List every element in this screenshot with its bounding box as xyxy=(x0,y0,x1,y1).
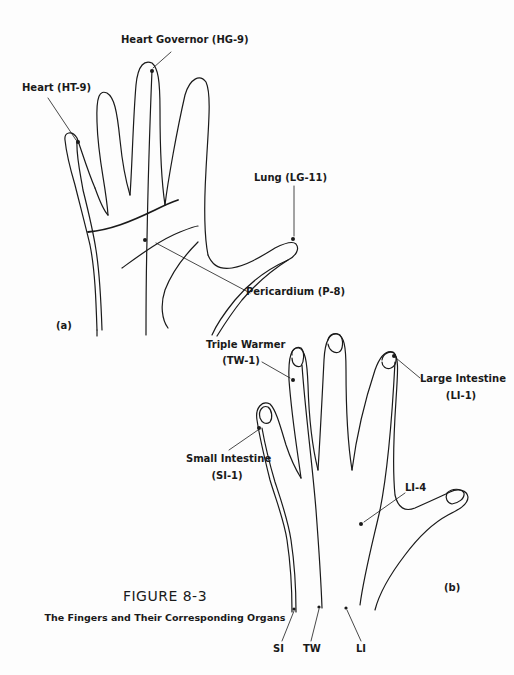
label-triple-warmer-code: (TW-1) xyxy=(206,355,276,366)
hand-illustrations xyxy=(0,0,514,675)
label-small-intestine: Small Intestine xyxy=(186,453,268,464)
label-heart: Heart (HT-9) xyxy=(22,82,91,93)
label-pericardium: Pericardium (P-8) xyxy=(246,286,345,297)
panel-a-tag: (a) xyxy=(56,320,72,331)
label-small-intestine-code: (SI-1) xyxy=(186,470,268,481)
figure-number: FIGURE 8-3 xyxy=(95,588,235,604)
label-meridian-si: SI xyxy=(273,643,284,654)
panel-b-tag: (b) xyxy=(444,582,460,593)
label-large-intestine-code: (LI-1) xyxy=(420,390,502,401)
figure-canvas: Heart Governor (HG-9) Heart (HT-9) Lung … xyxy=(0,0,514,675)
panel-b-points xyxy=(257,354,396,611)
label-triple-warmer: Triple Warmer xyxy=(206,339,276,350)
label-li4: LI-4 xyxy=(405,482,426,493)
label-heart-governor: Heart Governor (HG-9) xyxy=(121,34,249,45)
label-lung: Lung (LG-11) xyxy=(254,172,327,183)
label-meridian-li: LI xyxy=(356,643,366,654)
label-large-intestine: Large Intestine xyxy=(420,373,502,384)
panel-b-leaders xyxy=(229,358,420,641)
figure-caption: The Fingers and Their Corresponding Orga… xyxy=(40,612,290,623)
label-meridian-tw: TW xyxy=(303,643,321,654)
